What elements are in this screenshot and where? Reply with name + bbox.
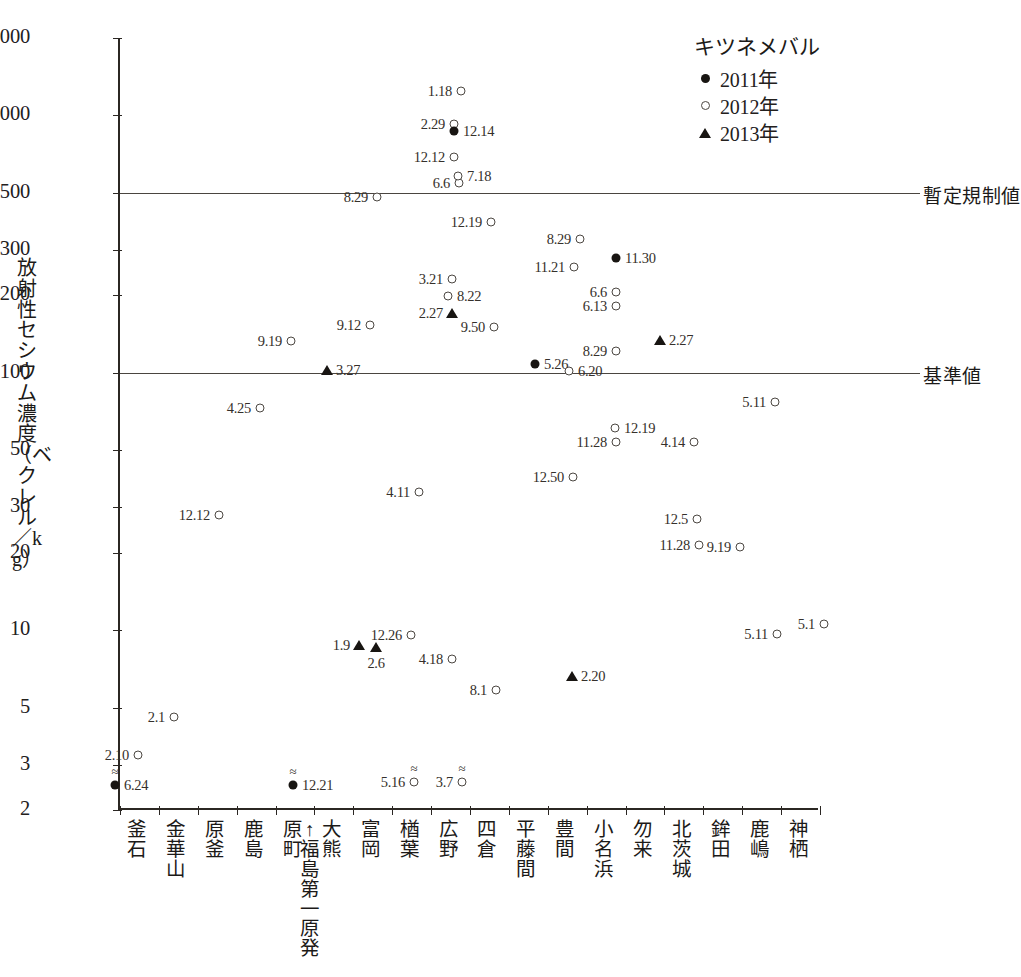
x-axis-label-0: 釜石 <box>124 820 150 860</box>
data-point-label: 8.22 <box>457 288 481 305</box>
x-tick-mark <box>392 806 393 815</box>
open-circle-marker <box>565 367 574 376</box>
x-axis-label-12: 小名浜 <box>591 820 617 880</box>
open-circle-marker <box>612 288 621 297</box>
data-point-label: 6.6 <box>590 284 607 301</box>
x-axis-label-3: 鹿島 <box>241 820 267 860</box>
y-tick-label: 200 <box>0 282 30 305</box>
open-circle-marker <box>569 473 578 482</box>
x-tick-mark <box>470 806 471 815</box>
approx-icon: ≈ <box>458 762 465 775</box>
y-tick-label: 2 <box>20 797 30 820</box>
y-tick-label: 2,000 <box>0 25 30 48</box>
data-point-label: 9.19 <box>258 333 282 350</box>
x-tick-mark <box>781 806 782 815</box>
y-tick-label: 1,000 <box>0 102 30 125</box>
data-point-label: 2.1 <box>148 709 165 726</box>
x-tick-mark <box>820 806 821 815</box>
open-circle-marker <box>611 424 620 433</box>
x-tick-mark <box>276 806 277 815</box>
y-tick-mark <box>113 115 122 116</box>
open-circle-marker <box>215 511 224 520</box>
data-point-label: 5.16 <box>381 774 405 791</box>
open-circle-marker <box>454 172 463 181</box>
x-axis-label-2: 原釜 <box>202 820 228 860</box>
open-circle-marker <box>690 438 699 447</box>
x-axis-label-11: 豊間 <box>552 820 578 860</box>
x-tick-mark <box>703 806 704 815</box>
y-tick-label: 500 <box>0 180 30 203</box>
data-point-label: 2.29 <box>421 116 445 133</box>
x-tick-mark <box>548 806 549 815</box>
y-tick-label: 50 <box>10 437 30 460</box>
threshold-label: 暫定規制値 <box>923 181 1021 208</box>
data-point-label: 6.24 <box>124 777 148 794</box>
open-circle-marker <box>287 337 296 346</box>
x-axis-label-8: 広野 <box>436 820 462 860</box>
plot-area: ≈6.242.102.14.2512.129.19≈12.213.271.99.… <box>118 38 818 810</box>
data-point-label: 8.1 <box>470 682 487 699</box>
x-tick-mark <box>742 806 743 815</box>
filled-triangle-marker <box>566 671 578 681</box>
data-point-label: 2.27 <box>669 332 693 349</box>
y-tick-mark <box>113 450 122 451</box>
y-tick-label: 5 <box>20 695 30 718</box>
x-tick-mark <box>509 806 510 815</box>
data-point-label: 12.21 <box>302 777 333 794</box>
y-tick-label: 100 <box>0 360 30 383</box>
x-axis-label-7: 楢葉 <box>397 820 423 860</box>
y-tick-label: 300 <box>0 237 30 260</box>
open-circle-marker <box>410 778 419 787</box>
threshold-line <box>120 373 920 374</box>
open-circle-marker <box>366 321 375 330</box>
filled-triangle-marker <box>370 642 382 652</box>
data-point-label: 3.21 <box>419 271 443 288</box>
data-point-label: 12.12 <box>179 507 210 524</box>
data-point-label: 9.19 <box>707 539 731 556</box>
open-circle-marker <box>576 235 585 244</box>
y-tick-label: 3 <box>20 752 30 775</box>
filled-circle-marker <box>111 781 120 790</box>
data-point-label: 5.11 <box>744 626 768 643</box>
fukushima-daiichi-annotation: ↑福島第一原発 <box>297 820 323 959</box>
filled-triangle-marker <box>353 640 365 650</box>
filled-circle-marker <box>450 127 459 136</box>
x-axis-label-6: 富岡 <box>358 820 384 860</box>
x-tick-mark <box>198 806 199 815</box>
open-circle-marker <box>820 620 829 629</box>
data-point-label: 9.50 <box>461 319 485 336</box>
y-tick-mark <box>113 295 122 296</box>
filled-triangle-marker <box>321 365 333 375</box>
y-tick-label: 20 <box>10 540 30 563</box>
data-point-label: 11.21 <box>534 259 565 276</box>
x-tick-mark <box>587 806 588 815</box>
threshold-label: 基準値 <box>923 361 982 388</box>
open-circle-marker <box>457 87 466 96</box>
threshold-line <box>120 193 920 194</box>
x-tick-mark <box>626 806 627 815</box>
y-tick-mark <box>113 250 122 251</box>
x-tick-mark <box>120 806 121 815</box>
data-point-label: 2.6 <box>367 655 384 672</box>
data-point-label: 12.50 <box>533 469 564 486</box>
x-axis-label-13: 勿来 <box>630 820 656 860</box>
open-circle-marker <box>444 292 453 301</box>
approx-icon: ≈ <box>289 765 296 778</box>
open-circle-marker <box>134 751 143 760</box>
x-tick-mark <box>159 806 160 815</box>
open-circle-marker <box>458 778 467 787</box>
data-point-label: 11.28 <box>576 434 607 451</box>
x-axis-label-16: 鹿嶋 <box>747 820 773 860</box>
y-tick-label: 10 <box>10 617 30 640</box>
open-circle-marker <box>170 713 179 722</box>
data-point-label: 4.25 <box>227 400 251 417</box>
open-circle-marker <box>256 404 265 413</box>
x-tick-mark <box>314 806 315 815</box>
data-point-label: 9.12 <box>337 317 361 334</box>
open-circle-marker <box>407 631 416 640</box>
approx-icon: ≈ <box>410 762 417 775</box>
x-tick-mark <box>431 806 432 815</box>
data-point-label: 3.7 <box>436 774 453 791</box>
open-circle-marker <box>773 630 782 639</box>
x-axis-label-17: 神栖 <box>786 820 812 860</box>
